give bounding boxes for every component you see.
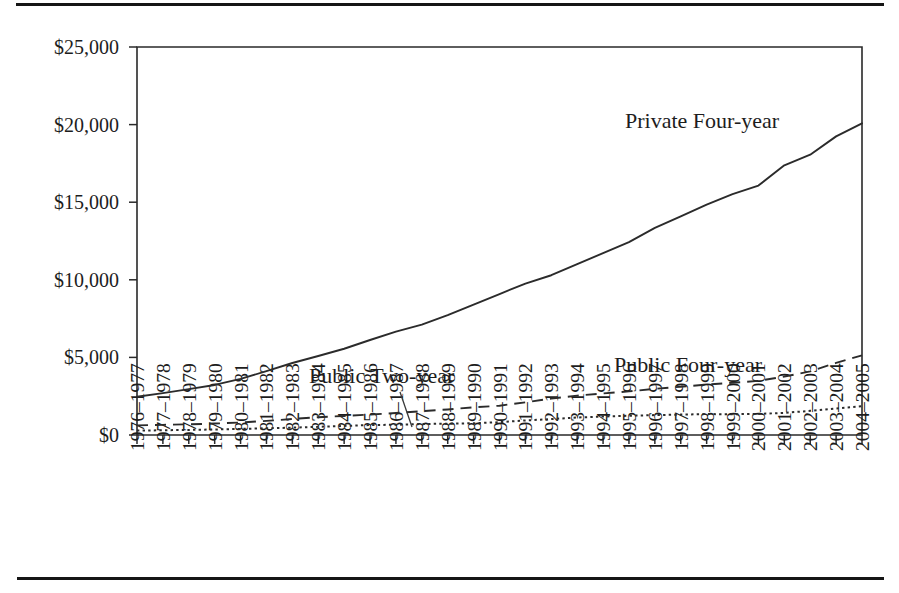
y-tick-label: $25,000 bbox=[54, 36, 119, 58]
x-tick-label: 1993–1994 bbox=[567, 363, 588, 451]
x-tick-label: 1979–1980 bbox=[205, 363, 226, 451]
x-tick-label: 1991–1992 bbox=[515, 363, 536, 451]
series-label-private-four-year: Private Four-year bbox=[625, 108, 780, 133]
y-tick-label: $15,000 bbox=[54, 191, 119, 213]
y-axis-tick-labels: $0$5,000$10,000$15,000$20,000$25,000 bbox=[54, 36, 119, 446]
y-tick-label: $10,000 bbox=[54, 269, 119, 291]
series-label-public-two-year: Public Two-year bbox=[309, 363, 455, 388]
y-tick-label: $20,000 bbox=[54, 114, 119, 136]
line-chart-plot: $0$5,000$10,000$15,000$20,000$25,000 197… bbox=[0, 0, 899, 593]
series-label-public-four-year: Public Four-year bbox=[614, 352, 763, 377]
x-tick-label: 1990–1991 bbox=[490, 363, 511, 451]
y-tick-label: $5,000 bbox=[64, 346, 119, 368]
x-tick-label: 1982–1983 bbox=[282, 363, 303, 451]
x-tick-label: 1994–1995 bbox=[593, 363, 614, 451]
x-tick-label: 1992–1993 bbox=[541, 363, 562, 451]
x-tick-label: 1977–1978 bbox=[153, 363, 174, 451]
chart-figure: $0$5,000$10,000$15,000$20,000$25,000 197… bbox=[0, 0, 899, 593]
y-tick-label: $0 bbox=[99, 424, 119, 446]
x-tick-label: 1976–1977 bbox=[127, 363, 148, 451]
x-tick-label: 2002–2003 bbox=[800, 363, 821, 451]
x-tick-label: 1978–1979 bbox=[179, 363, 200, 451]
x-tick-label: 1981–1982 bbox=[256, 363, 277, 451]
